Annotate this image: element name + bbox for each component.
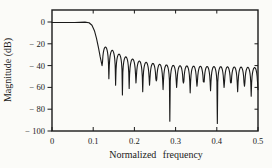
y-tick-label: − 20 [30,39,45,49]
y-tick-label: − 80 [30,104,45,114]
response-curve [52,22,258,123]
y-tick-label: − 100 [25,126,45,136]
x-tick-label: 0.1 [88,136,99,146]
y-tick-label: 0 [41,17,45,27]
y-axis-title: Magnitude (dB) [2,38,14,102]
x-tick-label: 0.3 [170,136,181,146]
magnitude-response-chart: 0− 20− 40− 60− 80− 10000.10.20.30.40.5 M… [0,0,272,168]
x-tick-label: 0.2 [129,136,140,146]
x-tick-label: 0.5 [253,136,264,146]
filter-response-figure: 0− 20− 40− 60− 80− 10000.10.20.30.40.5 M… [0,0,272,168]
y-tick-label: − 60 [30,82,45,92]
x-tick-label: 0.4 [211,136,222,146]
axis-ticks [48,10,259,131]
x-axis-title: Normalized frequency [109,149,203,160]
axis-tick-labels: 0− 20− 40− 60− 80− 10000.10.20.30.40.5 [25,17,263,146]
x-tick-label: 0 [50,136,54,146]
y-tick-label: − 40 [30,61,45,71]
